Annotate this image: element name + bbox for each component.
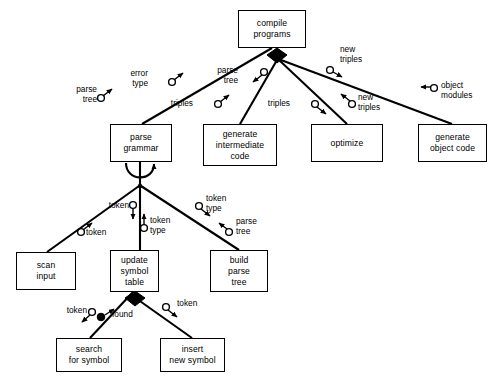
couple-circle-parse-tree-mid xyxy=(261,69,268,76)
node-compile-programs[interactable]: compile programs xyxy=(238,10,306,48)
edge-compile-optimize xyxy=(279,60,347,124)
couple-circle-new-triples-low xyxy=(349,101,356,108)
couple-arrow-triples-left xyxy=(220,95,229,102)
couple-circle-token-type-mid xyxy=(141,225,148,232)
couple-arrow-token-insert xyxy=(168,310,177,317)
couple-circle-new-triples-top xyxy=(327,67,334,74)
edge-label-triples-left: triples xyxy=(153,99,193,109)
node-build-parse-tree[interactable]: build parse tree xyxy=(210,250,268,292)
edge-label-token-type-right: token type xyxy=(206,194,242,214)
edge-parsegrammar-scan xyxy=(47,186,139,252)
node-insert-new-symbol[interactable]: insert new symbol xyxy=(160,338,225,372)
couple-arrow-triples-mid xyxy=(317,107,326,114)
couple-arrow-parse-tree-mid xyxy=(253,75,262,82)
diagram-edges xyxy=(0,0,497,391)
node-update-symbol-table[interactable]: update symbol table xyxy=(110,250,159,292)
edge-label-parse-tree-mid: parse tree xyxy=(198,66,238,86)
couple-circle-object-modules xyxy=(431,85,438,92)
edge-compile-genint xyxy=(240,60,277,124)
node-generate-intermediate-code[interactable]: generate intermediate code xyxy=(203,124,277,166)
couple-circle-token-type-right xyxy=(196,203,203,210)
node-optimize[interactable]: optimize xyxy=(311,124,383,162)
couple-arrow-error-type xyxy=(174,73,183,80)
diagram-canvas: compile programs parse grammar generate … xyxy=(0,0,497,391)
edge-label-object-modules: object modules xyxy=(441,81,489,101)
couple-circle-token-insert xyxy=(163,304,170,311)
couple-filledcircle-found xyxy=(97,313,105,321)
couple-circle-triples-mid xyxy=(312,101,319,108)
edge-label-new-triples-top: new triples xyxy=(340,45,384,65)
edge-label-error-type: error type xyxy=(108,69,148,89)
edge-label-new-triples-low: new triples xyxy=(358,93,402,113)
couple-arrow-parse-tree-build xyxy=(219,223,227,229)
edge-label-found: found xyxy=(112,310,148,320)
edge-compile-parsegrammar xyxy=(142,48,272,124)
edge-label-parse-tree-build: parse tree xyxy=(236,217,272,237)
node-scan-input[interactable]: scan input xyxy=(16,252,76,290)
edge-label-token-upper: token xyxy=(93,201,129,211)
couple-arrow-token-search xyxy=(82,315,90,322)
edge-label-token-lower: token xyxy=(86,228,122,238)
couple-circle-token-search xyxy=(89,309,96,316)
edge-label-token-type-mid: token type xyxy=(150,216,186,236)
edge-label-token-insert: token xyxy=(177,299,213,309)
junction-dot-parsegrammar xyxy=(138,184,142,188)
couple-circle-parse-tree-build xyxy=(226,229,233,236)
edge-label-parse-tree-left: parse tree xyxy=(57,85,97,105)
couple-arrow-new-triples-top xyxy=(333,72,342,77)
couple-arrow-new-triples-low xyxy=(341,94,350,101)
couple-arrow-parse-tree-left xyxy=(103,89,112,96)
edge-label-token-search: token xyxy=(51,306,87,316)
node-search-for-symbol[interactable]: search for symbol xyxy=(56,338,122,372)
edge-label-triples-mid: triples xyxy=(250,99,290,109)
node-generate-object-code[interactable]: generate object code xyxy=(418,124,487,162)
couple-circle-token-upper xyxy=(130,202,137,209)
node-parse-grammar[interactable]: parse grammar xyxy=(110,124,172,162)
